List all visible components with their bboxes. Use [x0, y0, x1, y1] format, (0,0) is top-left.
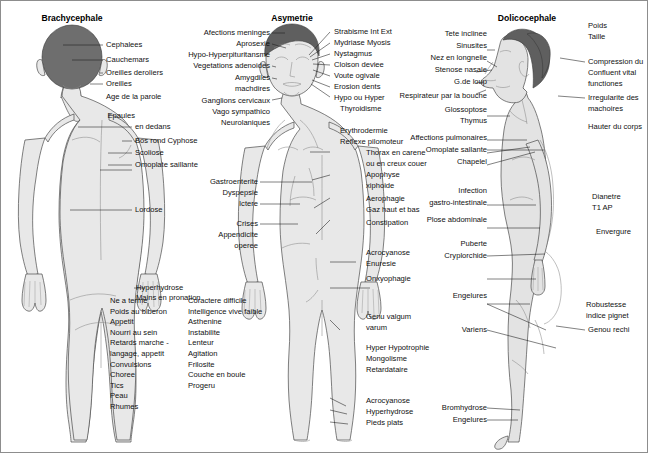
label-strabisme-int-ext: Strabisme Int Ext: [334, 28, 392, 37]
label-chapelel: Chapelel: [420, 158, 487, 167]
label-genou-rechi: Genou rechi: [588, 326, 629, 335]
label-hypo-hyperpituritansme: Hypo-Hyperpituritansme: [168, 51, 270, 60]
list-item: Couche en boule: [188, 370, 262, 381]
list-item: Lenteur: [188, 338, 262, 349]
list-item: Peau: [110, 391, 169, 402]
label-acrocyanose-foot: Acrocyanose: [366, 397, 410, 406]
list-item: Instabilite: [188, 328, 262, 339]
label-taille: Taille: [588, 33, 605, 42]
label-voute-ogivale: Voute ogivale: [334, 72, 380, 81]
label-bromhydrose: Bromhydrose: [410, 404, 487, 413]
label-respirateur-par-la-bouche: Respirateur par la bouche: [395, 92, 487, 101]
label-genu-valgum: Genu valgum: [366, 313, 411, 322]
label-onxyophagie: Onxyophagie: [366, 275, 411, 284]
label-erosion-dents: Erosion dents: [334, 83, 380, 92]
label-ictere: Ictere: [180, 200, 258, 209]
label-scoliose: Scoliose: [135, 149, 164, 158]
label-dianetre: Dianetre: [592, 193, 621, 202]
label-cryplorchide: Cryplorchide: [414, 252, 487, 261]
label-envergure: Envergure: [596, 228, 631, 237]
label-reflexe-pilomoteur: Reflexe pilomoteur: [340, 138, 403, 147]
label-oreilles-deroliers: Oreilles deroliers: [106, 69, 163, 78]
label-xiphoide: xiphoide: [366, 182, 394, 191]
list-item: Appetit: [110, 317, 169, 328]
label-tete-inclinee: Tete inclinee: [420, 30, 487, 39]
leader-lines-far-right: [556, 58, 585, 330]
label-hauter-du-corps: Hauter du corps: [588, 123, 642, 132]
label-dyspepsie: Dyspepsie: [180, 189, 258, 198]
label-hyper-hypotrophie: Hyper Hypotrophie: [366, 344, 429, 353]
label-aprosexie: Aprosexie: [170, 40, 270, 49]
label-epaules: Epaules: [75, 112, 135, 121]
anatomy-illustration: [0, 0, 648, 453]
label-constipation: Constipation: [366, 219, 408, 228]
label-aerophagie: Aerophagie: [366, 195, 405, 204]
label-en-dedans: en dedans: [135, 123, 170, 132]
label-afections-meninges: Afections meninges: [170, 29, 270, 38]
label-t1-ap: T1 AP: [592, 204, 613, 213]
label-acrocyanose-arm: Acrocyanose: [366, 249, 410, 258]
list-item: Intelligence vive faible: [188, 307, 262, 318]
label-indice-pignet: indice pignet: [586, 312, 629, 321]
label-engelures-hand: Engelures: [420, 292, 487, 301]
label-nystagmus: Nystagmus: [334, 50, 372, 59]
label-cauchemars: Cauchemars: [106, 56, 149, 65]
label-nez-en-longnelle: Nez en longnelle: [410, 54, 487, 63]
label-varum: varum: [366, 324, 387, 333]
list-item: Coractere difficile: [188, 296, 262, 307]
label-poids: Poids: [588, 22, 607, 31]
label-gastro-intestinale: gastro-intestinale: [404, 199, 487, 208]
label-infection: Infection: [420, 187, 487, 196]
label-erythrodermie: Erythrodermie: [340, 127, 388, 136]
figure-title-brachycephale: Brachycephale: [41, 13, 102, 23]
head-hair-left: [42, 25, 102, 89]
label-compression-du: Compression du: [588, 58, 643, 67]
list-item: langage, appetit: [110, 349, 169, 360]
list-item: Retards marche -: [110, 338, 169, 349]
list-item: Nourri au sein: [110, 328, 169, 339]
label-vegetations-adenoides: Vegetations adenoides: [170, 62, 270, 71]
label-ganglions-cervicaux: Ganglions cervicaux: [168, 97, 270, 106]
label-glossoptose: Glossoptose: [420, 106, 487, 115]
list-item: Progeru: [188, 381, 262, 392]
label-robustesse: Robustesse: [586, 301, 626, 310]
label-confluent-vital: Confluent vital: [588, 69, 636, 78]
label-hyperhydrose-left: Hyperhydrose: [136, 284, 183, 293]
label-sinusites: Sinusites: [420, 42, 487, 51]
label-gastroenterite: Gastroenterite: [180, 178, 258, 187]
label-neurolaniques: Neurolaniques: [170, 119, 270, 128]
label-enuresie: Enuresie: [366, 260, 396, 269]
label-lordose: Lordose: [135, 206, 162, 215]
list-item: Choree: [110, 370, 169, 381]
label-mongolisme: Mongolisme: [366, 355, 407, 364]
list-item: Frilosite: [188, 360, 262, 371]
label-hyperhydrose-center: Hyperhydrose: [366, 408, 413, 417]
label-plose-abdominale: Plose abdominale: [404, 216, 487, 225]
label-ou-en-creux-couer: ou en creux couer: [366, 160, 427, 169]
label-retardataire: Retardataire: [366, 366, 408, 375]
list-item: Asthenine: [188, 317, 262, 328]
label-omoplate-saillante: Omoplate saillante: [135, 161, 198, 170]
label-bos-rond-cyphose: Bos rond Cyphose: [135, 137, 197, 146]
label-appendicite: Appendicite: [180, 231, 258, 240]
label-engelures-foot: Engelures: [410, 416, 487, 425]
label-g-de-loup: G.de loup: [410, 78, 487, 87]
label-affections-pulmonaires: Affections pulmonaires: [395, 134, 487, 143]
label-thyroidisme: Thyroidisme: [340, 105, 381, 114]
label-amygdiles: Amygdiles: [170, 74, 270, 83]
label-functiones: functiones: [588, 80, 623, 89]
label-mydriase-myosis: Mydriase Myosis: [334, 39, 391, 48]
label-puberte: Puberte: [420, 240, 487, 249]
diagram-canvas: Brachycephale Asymetrie Dolicocephale Ce…: [0, 0, 648, 453]
list-item: Convulsions: [110, 360, 169, 371]
label-apophyse: Apophyse: [366, 171, 400, 180]
list-item: Rhumes: [110, 402, 169, 413]
label-crises: Crises: [180, 220, 258, 229]
list-item: Agitation: [188, 349, 262, 360]
label-cloison-deviee: Cloison deviee: [334, 61, 384, 70]
label-oreilles: Oreilles: [106, 80, 132, 89]
label-age-de-la-parole: Age de la parole: [106, 93, 161, 102]
label-omoplate-sallante: Omoplate sallante: [398, 146, 487, 155]
list-left-column-b: Coractere difficile Intelligence vive fa…: [188, 296, 262, 391]
list-item: Poids au biberon: [110, 307, 169, 318]
